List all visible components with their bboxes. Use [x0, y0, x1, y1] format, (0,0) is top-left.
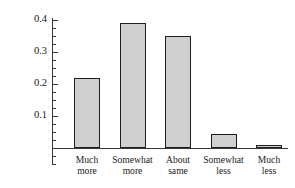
y-axis-tick-label: 0.2: [21, 77, 47, 88]
x-axis-category-label: Muchless: [229, 154, 295, 177]
y-axis-tick-label: 0.4: [21, 13, 47, 24]
category-label-line: less: [229, 165, 295, 176]
bar: [120, 23, 146, 148]
y-axis-minor-tick: [53, 124, 56, 125]
y-axis-major-tick: [53, 84, 58, 85]
x-axis-line: [52, 148, 288, 149]
bar: [256, 145, 282, 148]
y-axis-minor-tick: [53, 36, 56, 37]
y-axis-minor-tick: [53, 76, 56, 77]
category-label-line: Much: [229, 154, 295, 165]
y-axis-minor-tick: [53, 140, 56, 141]
y-axis-major-tick: [53, 52, 58, 53]
y-axis-minor-tick: [53, 60, 56, 61]
y-axis-minor-tick: [53, 100, 56, 101]
y-axis-minor-tick: [53, 44, 56, 45]
y-axis-major-tick: [53, 20, 58, 21]
bar: [74, 78, 100, 148]
bar-chart: Proportion responding 0.10.20.30.4 Muchm…: [0, 0, 295, 188]
y-axis-minor-tick: [53, 92, 56, 93]
bar: [211, 134, 237, 148]
y-axis-minor-tick: [53, 132, 56, 133]
y-axis-major-tick: [53, 116, 58, 117]
bar: [165, 36, 191, 148]
y-axis-minor-tick: [53, 108, 56, 109]
y-axis-tick-label: 0.1: [21, 109, 47, 120]
y-axis-tick-label: 0.3: [21, 45, 47, 56]
y-axis-minor-tick: [53, 28, 56, 29]
y-axis-minor-tick: [53, 68, 56, 69]
